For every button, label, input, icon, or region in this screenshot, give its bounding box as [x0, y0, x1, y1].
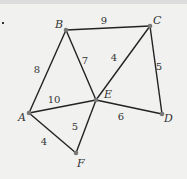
- node-label: E: [103, 88, 112, 101]
- node-label: D: [163, 112, 173, 125]
- node-E: [94, 98, 99, 103]
- edge-B-C: [66, 26, 150, 30]
- edge-weight: 10: [48, 94, 61, 105]
- edge-E-D: [96, 100, 162, 114]
- node-label: B: [54, 18, 63, 31]
- edge-weight: 4: [41, 136, 47, 147]
- edge-weight: 5: [72, 121, 78, 132]
- edge-weight: 5: [156, 61, 162, 72]
- node-C: [148, 24, 153, 29]
- bullet-dot: [2, 22, 4, 24]
- edge-A-F: [29, 113, 76, 153]
- edge-weight: 7: [82, 55, 88, 66]
- node-label: F: [76, 157, 85, 170]
- graph-diagram: 9874510654ABCDEF: [0, 0, 187, 179]
- edge-A-E: [29, 100, 96, 113]
- node-A: [27, 111, 32, 116]
- node-label: A: [17, 111, 26, 124]
- node-B: [64, 28, 69, 33]
- edge-E-F: [76, 100, 96, 153]
- node-F: [74, 151, 79, 156]
- edge-weight: 8: [34, 64, 40, 75]
- edge-weight: 4: [111, 52, 117, 63]
- node-label: C: [153, 14, 162, 27]
- edge-weight: 6: [118, 111, 124, 122]
- edge-weight: 9: [101, 15, 107, 26]
